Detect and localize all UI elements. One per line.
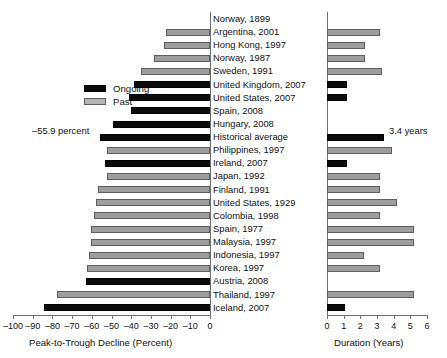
left-axis-tick [210, 315, 211, 319]
ticks-layer: –100–90–80–70–60–50–40–30–20–1000123456 [0, 0, 447, 358]
left-axis-tick [33, 315, 34, 319]
left-axis-tick [131, 315, 132, 319]
left-axis-tick [92, 315, 93, 319]
right-axis-tick [360, 315, 361, 319]
left-axis-tick [190, 315, 191, 319]
housing-bust-chart: Ongoing Past –55.9 percent 3.4 years Pea… [0, 0, 447, 358]
left-axis-tick [72, 315, 73, 319]
right-axis-tick [410, 315, 411, 319]
left-axis-tick [52, 315, 53, 319]
right-axis-tick [427, 315, 428, 319]
left-axis-tick [112, 315, 113, 319]
right-axis-tick [394, 315, 395, 319]
right-axis-tick [377, 315, 378, 319]
right-axis-tick [327, 315, 328, 319]
left-axis-tick [13, 315, 14, 319]
left-axis-tick [151, 315, 152, 319]
right-axis-tick-label: 6 [407, 322, 447, 331]
left-axis-tick-label: 0 [190, 322, 230, 331]
right-axis-tick [344, 315, 345, 319]
left-axis-tick [171, 315, 172, 319]
